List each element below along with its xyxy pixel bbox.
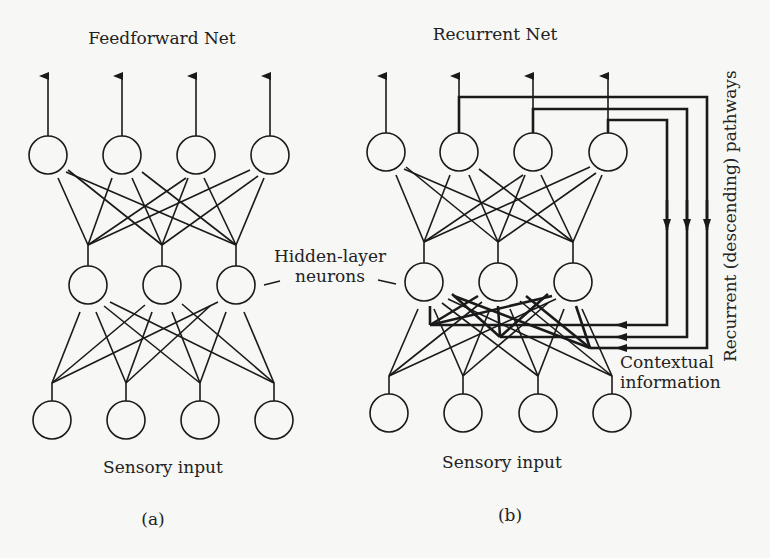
contextual-line2: information [620, 372, 721, 392]
input-layer [370, 394, 631, 432]
recurrent-pathways [430, 97, 707, 348]
recurrent-path-3 [608, 120, 667, 325]
hidden-layer-label: Hidden-layer neurons [274, 246, 386, 286]
hidden-to-output-connections [396, 167, 602, 263]
sensory-input-label-a: Sensory input [103, 457, 223, 477]
output-arrows [386, 76, 608, 133]
recurrent-path-2 [533, 109, 687, 337]
feedforward-net [29, 76, 293, 439]
hidden-label-line1: Hidden-layer [274, 246, 386, 266]
hidden-label-line2: neurons [274, 266, 386, 286]
caption-a: (a) [141, 509, 164, 529]
hidden-to-output-connections [58, 170, 264, 266]
recurrent-net [367, 76, 631, 432]
hidden-layer [69, 266, 255, 304]
input-layer [33, 401, 293, 439]
input-to-hidden-connections [52, 302, 274, 401]
recurrent-title: Recurrent Net [433, 24, 558, 44]
sensory-input-label-b: Sensory input [442, 452, 562, 472]
output-layer [367, 133, 627, 171]
output-arrows [48, 76, 270, 136]
recurrent-pathways-label: Recurrent (descending) pathways [720, 70, 740, 362]
hidden-layer [405, 263, 592, 301]
output-layer [29, 136, 289, 174]
contextual-line1: Contextual [620, 352, 721, 372]
feedforward-title: Feedforward Net [88, 28, 235, 48]
caption-b: (b) [498, 505, 522, 525]
contextual-information-label: Contextual information [620, 352, 721, 392]
